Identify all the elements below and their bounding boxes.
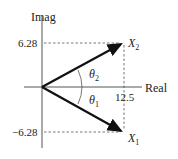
phasor-diagram: Imag Real 6.28 −6.28 12.5 X2 X1 θ2 θ1 (0, 0, 178, 159)
tick-x-value: 12.5 (115, 91, 135, 103)
label-theta1: θ1 (89, 93, 99, 109)
label-x1: X1 (127, 131, 139, 147)
tick-y-positive: 6.28 (18, 37, 38, 49)
label-x2: X2 (127, 36, 139, 52)
real-axis-label: Real (145, 81, 168, 95)
imag-axis-label: Imag (31, 10, 56, 24)
label-theta2: θ2 (89, 67, 99, 83)
tick-y-negative: −6.28 (12, 126, 38, 138)
